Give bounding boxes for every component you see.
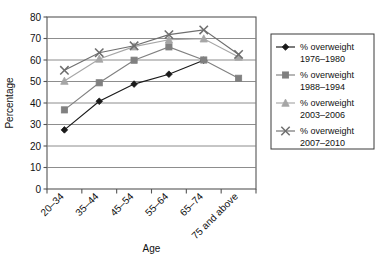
y-tick-label: 30 bbox=[30, 119, 42, 130]
data-point-square bbox=[166, 44, 172, 50]
y-tick-label: 60 bbox=[30, 55, 42, 66]
x-axis-title: Age bbox=[143, 243, 161, 254]
legend: % overweight1976–1980% overweight1988–19… bbox=[271, 34, 374, 149]
x-tick-label: 55–64 bbox=[143, 190, 171, 218]
y-tick-label: 0 bbox=[35, 184, 41, 195]
y-tick-label: 40 bbox=[30, 98, 42, 109]
y-tick-label: 80 bbox=[30, 12, 42, 23]
x-axis-ticks: 20–3435–4445–5455–6465–7475 and above bbox=[38, 189, 256, 241]
legend-marker-square bbox=[282, 72, 288, 78]
x-tick-label: 20–34 bbox=[38, 190, 66, 218]
legend-label-line2: 2003–2006 bbox=[300, 110, 345, 120]
legend-label-line2: 1988–1994 bbox=[300, 82, 345, 92]
line-chart: 0102030405060708020–3435–4445–5455–6465–… bbox=[0, 0, 379, 269]
legend-label-line1: % overweight bbox=[300, 98, 355, 108]
data-point-square bbox=[131, 57, 137, 63]
y-tick-label: 20 bbox=[30, 141, 42, 152]
data-point-square bbox=[201, 57, 207, 63]
legend-label-line1: % overweight bbox=[300, 70, 355, 80]
y-tick-label: 10 bbox=[30, 162, 42, 173]
y-tick-label: 50 bbox=[30, 76, 42, 87]
x-tick-label: 35–44 bbox=[73, 190, 101, 218]
legend-label-line1: % overweight bbox=[300, 126, 355, 136]
data-point-square bbox=[235, 75, 241, 81]
legend-label-line1: % overweight bbox=[300, 42, 355, 52]
legend-label-line2: 2007–2010 bbox=[300, 138, 345, 148]
y-tick-label: 70 bbox=[30, 33, 42, 44]
x-tick-label: 45–54 bbox=[108, 190, 136, 218]
chart-figure: 0102030405060708020–3435–4445–5455–6465–… bbox=[0, 0, 379, 269]
data-point-square bbox=[61, 107, 67, 113]
data-point-square bbox=[96, 80, 102, 86]
legend-label-line2: 1976–1980 bbox=[300, 54, 345, 64]
y-axis-title: Percentage bbox=[4, 77, 15, 129]
x-tick-label: 65–74 bbox=[178, 190, 206, 218]
